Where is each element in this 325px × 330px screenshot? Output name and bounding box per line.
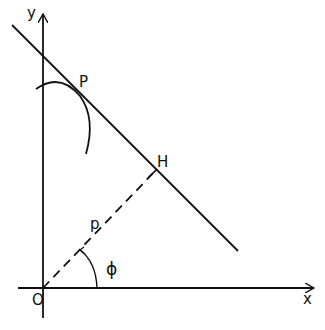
right-angle-mark (148, 169, 157, 178)
angle-arc (80, 250, 97, 288)
point-p-label: P (79, 75, 88, 90)
x-axis-label: x (303, 292, 312, 307)
distance-label: p (90, 217, 100, 232)
foot-h-label: H (157, 155, 168, 170)
arc-through-p (36, 82, 90, 154)
perpendicular-oh (43, 169, 157, 288)
angle-label: ϕ (106, 262, 117, 277)
y-axis-label: y (27, 6, 36, 21)
normal-form-diagram: y x O P H p ϕ (0, 0, 325, 330)
origin-label: O (32, 293, 44, 308)
straight-line (12, 25, 238, 251)
